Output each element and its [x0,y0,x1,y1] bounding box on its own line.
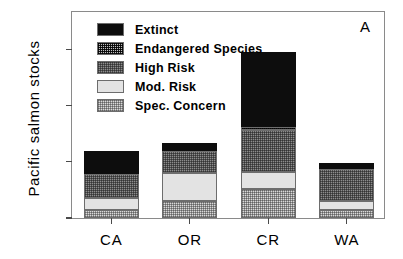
bar-segment-or-high-risk [162,151,217,173]
x-tick-or [189,218,190,224]
x-tick-label-or: OR [160,231,220,248]
bar-segment-wa-extinct [319,163,374,169]
bar-segment-wa-mod-risk [319,201,374,210]
x-tick-label-cr: CR [238,231,298,248]
panel-label: A [360,18,370,35]
bar-segment-cr-endangered-species [241,127,296,130]
plot-area: 050100150 CAORCRWA ExtinctEndangered Spe… [71,11,385,219]
x-tick-wa [346,218,347,224]
x-tick-label-wa: WA [317,231,377,248]
x-tick-cr [268,218,269,224]
legend-label-high-risk: High Risk [135,61,195,75]
high-risk-swatch [97,61,124,74]
bar-wa [319,163,374,218]
spec-concern-swatch [97,99,124,112]
legend-label-extinct: Extinct [135,23,178,37]
x-tick-ca [111,218,112,224]
legend-label-spec-concern: Spec. Concern [135,99,226,113]
y-tick-50 [66,161,72,162]
legend-item-extinct: Extinct [97,20,262,39]
extinct-swatch [97,23,124,36]
mod-risk-swatch [97,80,124,93]
bar-segment-or-mod-risk [162,173,217,201]
bar-segment-ca-extinct [84,151,139,175]
y-tick-100 [66,105,72,106]
bar-segment-or-spec-concern [162,201,217,218]
bar-segment-cr-mod-risk [241,172,296,189]
bar-segment-ca-spec-concern [84,210,139,218]
bar-segment-cr-high-risk [241,130,296,172]
legend-item-high-risk: High Risk [97,58,262,77]
x-tick-label-ca: CA [81,231,141,248]
bar-segment-ca-mod-risk [84,198,139,210]
legend-item-mod-risk: Mod. Risk [97,77,262,96]
y-tick-150 [66,49,72,50]
legend-label-mod-risk: Mod. Risk [135,80,196,94]
bar-segment-cr-spec-concern [241,189,296,218]
legend-item-spec-concern: Spec. Concern [97,96,262,115]
figure-panel-a: Pacific salmon stocks 050100150 CAORCRWA… [0,0,403,259]
y-axis-title: Pacific salmon stocks [25,14,42,224]
y-tick-0 [66,217,72,218]
bar-segment-wa-high-risk [319,169,374,202]
legend: ExtinctEndangered SpeciesHigh RiskMod. R… [97,20,262,115]
bar-segment-wa-spec-concern [319,210,374,218]
legend-item-endangered: Endangered Species [97,39,262,58]
bar-segment-ca-high-risk [84,174,139,198]
bar-segment-or-extinct [162,143,217,151]
legend-label-endangered: Endangered Species [135,42,262,56]
endangered-swatch [97,42,124,55]
bar-ca [84,151,139,218]
bar-or [162,143,217,218]
